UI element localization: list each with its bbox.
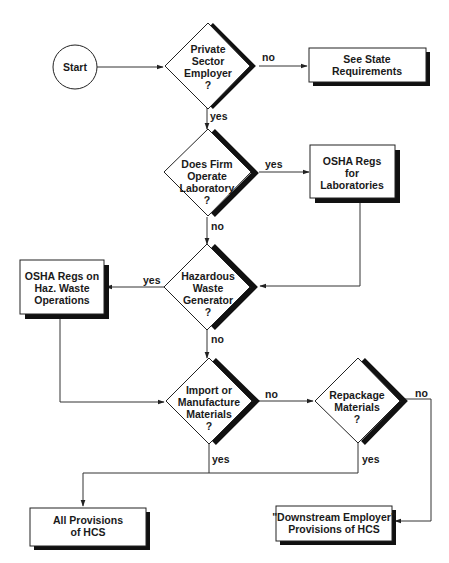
node-label-line: OSHA Regs — [323, 155, 382, 167]
node-label-line: Does Firm — [181, 158, 232, 170]
node-label-line: for — [345, 167, 359, 179]
label-lab-yes: yes — [265, 158, 283, 170]
node-label-line: Waste — [193, 282, 224, 294]
node-label-line: Import or — [186, 384, 232, 396]
node-label-line: Haz. Waste — [34, 282, 89, 294]
node-label-line: ? — [204, 194, 210, 206]
node-label-line: Requirements — [332, 65, 402, 77]
node-label-line: ? — [354, 413, 360, 425]
node-label-line: "Downstream Employer" — [272, 511, 396, 523]
edge-repackage-to-downstream — [395, 399, 431, 521]
node-label-line: Repackage — [329, 389, 385, 401]
node-private-sector-decision: Private Sector Employer ? — [165, 23, 252, 109]
node-label-line: OSHA Regs on — [25, 270, 99, 282]
node-label-line: Private — [190, 43, 225, 55]
edge-osha-haz-to-import-mfg — [60, 318, 164, 402]
node-label-line: Manufacture — [178, 396, 241, 408]
node-label-line: ? — [205, 79, 211, 91]
node-import-mfg-decision: Import or Manufacture Materials ? — [166, 358, 256, 444]
node-start-label: Start — [63, 61, 87, 73]
node-label-line: Hazardous — [181, 270, 235, 282]
node-osha-regs-haz-waste: OSHA Regs on Haz. Waste Operations — [20, 260, 109, 319]
edge-osha-lab-to-haz-waste — [260, 202, 360, 286]
node-label-line: Operate — [187, 170, 227, 182]
node-label-line: ? — [206, 420, 212, 432]
node-label-line: Laboratories — [320, 179, 384, 191]
node-label-line: ? — [205, 306, 211, 318]
label-lab-no: no — [211, 220, 224, 232]
node-osha-regs-laboratories: OSHA Regs for Laboratories — [310, 145, 400, 203]
label-haz-no: no — [211, 333, 224, 345]
label-private-yes: yes — [210, 110, 228, 122]
node-repackage-decision: Repackage Materials ? — [315, 358, 404, 443]
node-label-line: Materials — [186, 408, 232, 420]
node-label-line: of HCS — [71, 526, 106, 538]
node-label-line: Operations — [34, 294, 90, 306]
label-private-no: no — [262, 51, 275, 63]
label-repack-yes: yes — [362, 453, 380, 465]
node-label-line: Materials — [334, 401, 380, 413]
edge-repackage-to-all-hcs — [209, 443, 358, 473]
node-label-line: Employer — [184, 67, 232, 79]
node-label-line: Sector — [192, 55, 225, 67]
node-all-provisions-hcs: All Provisions of HCS — [30, 508, 150, 550]
node-see-state-requirements: See State Requirements — [309, 48, 430, 86]
node-label-line: Generator — [183, 294, 233, 306]
node-start: Start — [53, 45, 97, 89]
flowchart-canvas: no yes yes no yes no no yes no yes Start… — [0, 0, 449, 563]
label-haz-yes: yes — [143, 274, 161, 286]
node-label-line: See State — [343, 53, 390, 65]
label-import-yes: yes — [212, 453, 230, 465]
node-haz-waste-decision: Hazardous Waste Generator ? — [164, 244, 254, 330]
edge-import-mfg-to-all-hcs — [83, 443, 209, 506]
node-downstream-employer: "Downstream Employer" Provisions of HCS — [272, 506, 396, 545]
node-label-line: Provisions of HCS — [288, 523, 380, 535]
label-import-no: no — [265, 388, 278, 400]
node-operate-lab-decision: Does Firm Operate Laboratory ? — [164, 129, 255, 216]
node-label-line: All Provisions — [53, 514, 123, 526]
label-repack-no: no — [415, 387, 428, 399]
node-label-line: Laboratory — [180, 182, 235, 194]
